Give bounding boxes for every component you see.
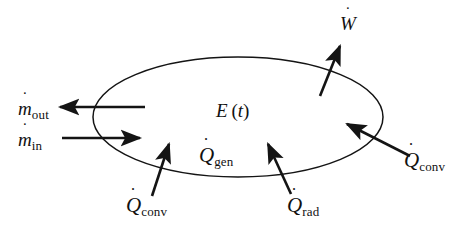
wdot-arrow	[320, 46, 340, 96]
q-conv-right-subscript: conv	[419, 159, 445, 174]
q-rad-symbol: Q	[287, 195, 302, 216]
q-gen-symbol: Q	[199, 145, 214, 166]
wdot-symbol: W	[340, 14, 356, 33]
q-conv-right-symbol: Q	[404, 150, 419, 171]
mdot-in-subscript: in	[32, 138, 43, 153]
q-conv-left-symbol: Q	[126, 195, 141, 216]
q-rad-arrow	[268, 144, 291, 194]
energy-symbol: E	[216, 100, 228, 121]
q-conv-left-label: Qconv	[126, 195, 167, 216]
mdot-out-symbol: m	[18, 99, 32, 118]
diagram-canvas: E (t) mout min W Qgen Qconv Qrad Qconv	[0, 0, 475, 231]
mdot-out-subscript: out	[32, 107, 49, 122]
q-conv-left-subscript: conv	[141, 204, 167, 219]
mdot-in-symbol: m	[18, 130, 32, 149]
q-rad-subscript: rad	[302, 204, 319, 219]
wdot-label: W	[340, 14, 356, 33]
q-gen-subscript: gen	[214, 154, 233, 169]
mdot-in-label: min	[18, 130, 42, 149]
energy-state-label: E (t)	[216, 101, 249, 120]
q-gen-label: Qgen	[199, 145, 234, 166]
energy-arg-close: )	[243, 100, 249, 121]
q-rad-label: Qrad	[287, 195, 319, 216]
q-conv-right-label: Qconv	[404, 150, 445, 171]
mdot-out-label: mout	[18, 99, 49, 118]
